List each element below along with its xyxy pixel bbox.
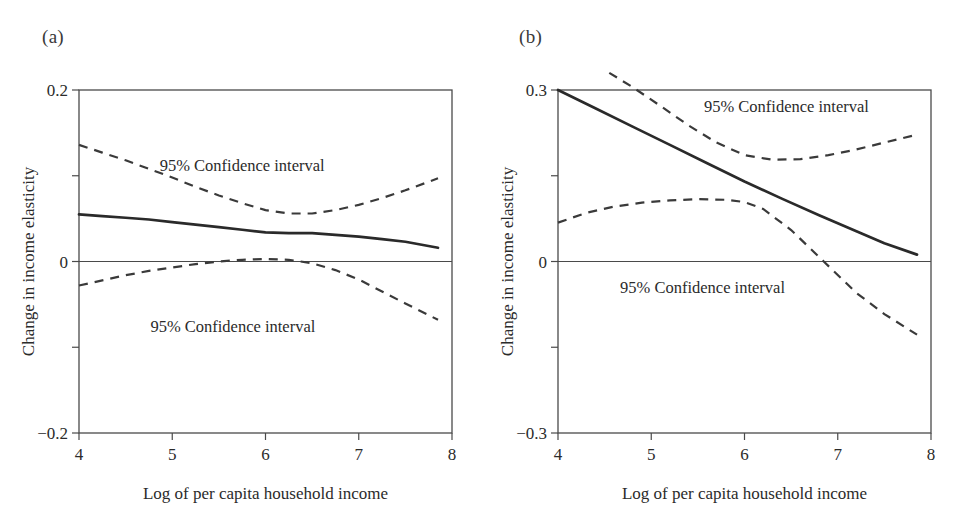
y-axis-tick-label: 0.2 bbox=[47, 81, 68, 100]
x-axis-tick-label: 8 bbox=[927, 445, 936, 464]
chart-panel-a: (a) 0.20−0.245678Log of per capita house… bbox=[0, 0, 478, 528]
x-axis-tick-label: 6 bbox=[740, 445, 749, 464]
confidence-interval-curve bbox=[609, 73, 917, 160]
figure-container: (a) 0.20−0.245678Log of per capita house… bbox=[0, 0, 957, 528]
y-axis-label: Change in income elasticity bbox=[19, 166, 38, 356]
x-axis-tick-label: 4 bbox=[554, 445, 563, 464]
panel-a-plot: 0.20−0.245678Log of per capita household… bbox=[0, 0, 478, 528]
confidence-interval-annotation: 95% Confidence interval bbox=[160, 156, 325, 175]
y-axis-tick-label: −0.3 bbox=[516, 424, 547, 443]
y-axis-tick-label: −0.2 bbox=[37, 424, 68, 443]
confidence-interval-curve bbox=[558, 199, 917, 334]
x-axis-tick-label: 7 bbox=[834, 445, 843, 464]
point-estimate-curve bbox=[79, 214, 438, 247]
x-axis-tick-label: 5 bbox=[168, 445, 177, 464]
y-axis-tick-label: 0.3 bbox=[526, 81, 547, 100]
x-axis-tick-label: 5 bbox=[647, 445, 656, 464]
confidence-interval-curve bbox=[79, 145, 438, 214]
chart-panel-b: (b) 0.30−0.345678Log of per capita house… bbox=[479, 0, 957, 528]
y-axis-tick-label: 0 bbox=[539, 253, 548, 272]
x-axis-tick-label: 7 bbox=[355, 445, 364, 464]
panel-b-plot: 0.30−0.345678Log of per capita household… bbox=[479, 0, 957, 528]
x-axis-label: Log of per capita household income bbox=[622, 484, 867, 503]
x-axis-tick-label: 8 bbox=[448, 445, 457, 464]
x-axis-tick-label: 4 bbox=[75, 445, 84, 464]
y-axis-label: Change in income elasticity bbox=[498, 166, 517, 356]
confidence-interval-annotation: 95% Confidence interval bbox=[704, 97, 869, 116]
confidence-interval-curve bbox=[79, 259, 438, 320]
x-axis-label: Log of per capita household income bbox=[143, 484, 388, 503]
x-axis-tick-label: 6 bbox=[261, 445, 270, 464]
y-axis-tick-label: 0 bbox=[60, 253, 69, 272]
confidence-interval-annotation: 95% Confidence interval bbox=[620, 278, 785, 297]
confidence-interval-annotation: 95% Confidence interval bbox=[150, 317, 315, 336]
